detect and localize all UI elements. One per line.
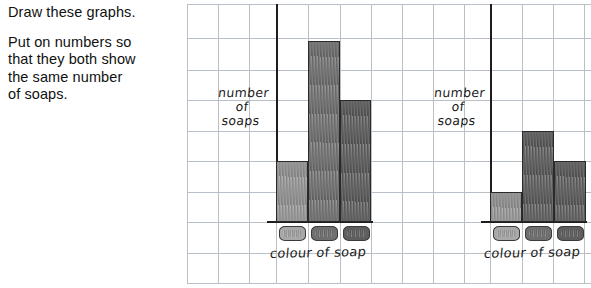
right-graph-soap-swatch-1 bbox=[493, 226, 520, 241]
right-graph: number of soaps colour of soap bbox=[401, 4, 591, 284]
right-graph-x-axis-label: colour of soap bbox=[483, 245, 581, 261]
left-graph-bar-3 bbox=[340, 100, 371, 222]
right-graph-bar-3 bbox=[554, 161, 586, 222]
instructions-block: Draw these graphs. Put on numbers so tha… bbox=[8, 4, 186, 104]
instruction-line-1: Draw these graphs. bbox=[8, 4, 186, 22]
left-graph-x-axis-label: colour of soap bbox=[269, 245, 367, 261]
left-graph-soap-swatch-3 bbox=[343, 226, 370, 241]
left-graph-y-axis-label-line-2: of bbox=[210, 100, 273, 114]
instruction-line-5: of soaps. bbox=[8, 86, 186, 104]
graph-paper-grid: number of soaps colour of soap number of… bbox=[187, 4, 591, 284]
right-graph-y-axis-label-line-2: of bbox=[426, 100, 489, 114]
right-graph-y-axis-label: number of soaps bbox=[425, 86, 491, 128]
right-graph-y-axis bbox=[490, 4, 492, 223]
left-graph-y-axis-label: number of soaps bbox=[209, 86, 275, 128]
instruction-line-2: Put on numbers so bbox=[8, 34, 186, 52]
left-graph-bar-1 bbox=[276, 161, 308, 222]
left-graph-soap-swatch-2 bbox=[311, 226, 338, 241]
right-graph-bar-2 bbox=[522, 131, 554, 222]
instruction-line-4: the same number bbox=[8, 69, 186, 87]
right-graph-bar-1 bbox=[490, 192, 522, 222]
right-graph-y-axis-label-line-3: soaps bbox=[425, 114, 488, 128]
instruction-line-3: that they both show bbox=[8, 51, 186, 69]
right-graph-soap-swatch-3 bbox=[557, 226, 584, 241]
right-graph-soap-swatch-2 bbox=[525, 226, 552, 241]
left-graph-soap-swatch-1 bbox=[279, 226, 306, 241]
left-graph-y-axis-label-line-1: number bbox=[212, 86, 275, 100]
worksheet-page: Draw these graphs. Put on numbers so tha… bbox=[0, 0, 591, 288]
right-graph-y-axis-label-line-1: number bbox=[428, 86, 491, 100]
left-graph-y-axis-label-line-3: soaps bbox=[209, 114, 272, 128]
left-graph: number of soaps colour of soap bbox=[187, 4, 387, 284]
left-graph-bar-2 bbox=[308, 41, 340, 222]
